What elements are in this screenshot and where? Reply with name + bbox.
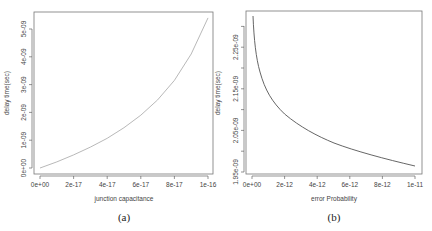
x-axis-b — [252, 176, 415, 179]
x-tick-label: 6e-12 — [341, 181, 358, 188]
y-tick-label: 1.95e-09 — [232, 159, 239, 185]
x-tick-label: 8e-12 — [374, 181, 391, 188]
data-line-a — [40, 18, 208, 168]
x-axis-title-a: junction capacitance — [94, 195, 154, 203]
y-tick-label: 2e-09 — [20, 104, 27, 121]
x-axis-a — [40, 176, 208, 179]
x-tick-label: 1e-16 — [200, 181, 217, 188]
y-tick-labels-b: 1.95e-09 2.05e-09 2.15e-09 2.25e-09 — [232, 34, 239, 185]
y-tick-label: 2.25e-09 — [232, 34, 239, 60]
y-tick-labels-a: 0e+00 1e-09 2e-09 3e-09 4e-09 5e-09 — [20, 20, 27, 177]
x-tick-label: 8e-17 — [166, 181, 183, 188]
y-tick-label: 2.15e-09 — [232, 76, 239, 102]
chart-b: 0e+00 2e-12 4e-12 6e-12 8e-12 1e-11 1.95… — [214, 11, 423, 224]
x-tick-label: 6e-17 — [132, 181, 149, 188]
x-tick-label: 1e-11 — [407, 181, 424, 188]
x-tick-label: 4e-17 — [99, 181, 116, 188]
x-tick-label: 2e-12 — [276, 181, 293, 188]
y-axis-b — [241, 26, 244, 172]
y-tick-label: 4e-09 — [20, 48, 27, 65]
y-axis-title-a: delay time(sec) — [3, 71, 11, 115]
y-tick-label: 0e+00 — [20, 158, 27, 177]
x-axis-title-b: error Probability — [311, 195, 358, 203]
y-tick-label: 3e-09 — [20, 76, 27, 93]
y-tick-label: 5e-09 — [20, 20, 27, 37]
plot-frame-a — [34, 12, 213, 174]
x-tick-label: 2e-17 — [65, 181, 82, 188]
y-axis-a — [29, 29, 32, 168]
panel-caption-b: (b) — [328, 211, 341, 224]
data-line-b — [253, 16, 415, 166]
chart-a: 0e+00 2e-17 4e-17 6e-17 8e-17 1e-16 0e+0… — [3, 12, 217, 224]
x-tick-label: 4e-12 — [309, 181, 326, 188]
panel-caption-a: (a) — [118, 211, 131, 224]
figure: 0e+00 2e-17 4e-17 6e-17 8e-17 1e-16 0e+0… — [0, 0, 432, 231]
x-tick-label: 0e+00 — [243, 181, 262, 188]
x-tick-labels-b: 0e+00 2e-12 4e-12 6e-12 8e-12 1e-11 — [243, 181, 424, 188]
y-axis-title-b: delay time(sec) — [214, 71, 222, 115]
y-tick-label: 1e-09 — [20, 132, 27, 149]
x-tick-labels-a: 0e+00 2e-17 4e-17 6e-17 8e-17 1e-16 — [31, 181, 217, 188]
x-tick-label: 0e+00 — [31, 181, 50, 188]
plot-frame-b — [246, 11, 422, 174]
y-tick-label: 2.05e-09 — [232, 117, 239, 143]
